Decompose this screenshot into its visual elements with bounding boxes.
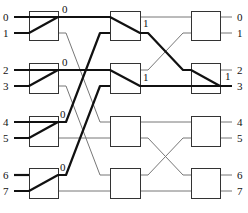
switch-state-label: 0	[62, 56, 68, 68]
switch-state-label: 0	[60, 108, 66, 120]
output-label: 3	[237, 80, 243, 92]
output-label: 6	[237, 169, 243, 181]
link-line	[140, 138, 191, 175]
switch-boxes	[30, 12, 221, 199]
output-label: 4	[237, 116, 243, 128]
switch-state-label: 1	[143, 17, 149, 29]
input-label: 3	[3, 80, 9, 92]
output-label: 0	[237, 11, 243, 23]
input-label: 7	[3, 185, 9, 197]
switch-box-s3-r4	[192, 169, 221, 199]
input-label: 4	[3, 116, 9, 128]
input-label: 2	[3, 64, 9, 76]
input-label: 5	[3, 132, 9, 144]
output-label: 2	[237, 64, 243, 76]
input-label: 6	[3, 169, 9, 181]
switch-box-s3-r3	[192, 117, 221, 147]
output-label: 7	[237, 185, 243, 197]
routed-paths	[14, 17, 232, 191]
switching-network-diagram: 01234567012345670000111	[0, 0, 248, 213]
thin-links	[58, 17, 232, 191]
switch-box-s3-r1	[192, 12, 221, 41]
output-label: 5	[237, 132, 243, 144]
switch-box-s2-r4	[111, 169, 141, 199]
switch-state-label: 1	[143, 71, 149, 83]
switch-box-s2-r3	[111, 117, 141, 147]
switch-state-label: 0	[62, 3, 68, 15]
input-label: 0	[3, 11, 9, 23]
switch-box-s1-r1	[30, 12, 59, 41]
output-label: 1	[237, 27, 243, 39]
switch-state-label: 0	[60, 161, 66, 173]
input-label: 1	[3, 27, 9, 39]
switch-state-label: 1	[225, 70, 231, 82]
